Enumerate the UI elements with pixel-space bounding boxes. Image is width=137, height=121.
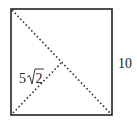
radicand-text: 2 (36, 71, 43, 86)
side-length-label: 10 (118, 56, 132, 71)
square-diagram: 5 2 10 (0, 0, 137, 121)
coefficient-text: 5 (19, 71, 26, 86)
half-diagonal-label: 5 2 (19, 69, 44, 86)
diagonal-line (12, 10, 110, 113)
